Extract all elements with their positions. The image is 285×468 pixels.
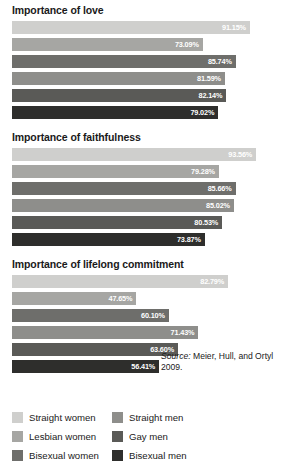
source-label: Source: (161, 351, 191, 361)
legend-item-label: Straight men (129, 412, 183, 424)
bar-row: 93.56% (12, 148, 285, 161)
legend-swatch-icon (12, 412, 23, 423)
bar-row: 85.66% (12, 182, 285, 195)
legend-item-label: Gay men (129, 431, 168, 443)
legend-item-lesbian-women: Lesbian women (12, 427, 112, 446)
bar-value-label: 82.79% (200, 275, 228, 288)
bar-value-label: 91.15% (222, 21, 250, 34)
legend-item-bisexual-men: Bisexual men (112, 446, 187, 465)
bar-straight-men: 81.59% (12, 72, 225, 85)
legend-item-straight-women: Straight women (12, 408, 112, 427)
legend-swatch-icon (12, 450, 23, 461)
bar-row: 60.10% (12, 309, 285, 322)
bar-straight-women: 82.79% (12, 275, 228, 288)
bar-lesbian-women: 73.09% (12, 38, 203, 51)
bar-row: 73.87% (12, 233, 285, 246)
legend-item-label: Bisexual men (129, 450, 187, 462)
bar-lesbian-women: 47.65% (12, 292, 136, 305)
bar-row: 71.43% (12, 326, 285, 339)
bar-bisexual-men: 79.02% (12, 106, 218, 119)
bar-gay-men: 82.14% (12, 89, 226, 102)
legend-item-gay-men: Gay men (112, 427, 187, 446)
bar-value-label: 85.66% (208, 182, 236, 195)
bar-row: 91.15% (12, 21, 285, 34)
bar-value-label: 80.53% (194, 216, 222, 229)
legend-column-right: Straight men Gay men Bisexual men (112, 408, 187, 465)
bar-bisexual-men: 56.41% (12, 360, 159, 373)
bar-row: 79.02% (12, 106, 285, 119)
chart-panel-faithfulness: Importance of faithfulness 93.56% 79.28%… (0, 123, 285, 246)
chart-panel-lifelong-commitment: Importance of lifelong commitment 82.79%… (0, 250, 285, 373)
bar-straight-women: 91.15% (12, 21, 250, 34)
bar-bisexual-men: 73.87% (12, 233, 205, 246)
panel-title-faithfulness: Importance of faithfulness (0, 131, 285, 144)
bar-value-label: 82.14% (199, 89, 227, 102)
bar-straight-men: 71.43% (12, 326, 198, 339)
bar-value-label: 85.02% (206, 199, 234, 212)
bar-row: 82.14% (12, 89, 285, 102)
bar-row: 47.65% (12, 292, 285, 305)
bar-straight-men: 85.02% (12, 199, 234, 212)
bar-value-label: 85.74% (208, 55, 236, 68)
bar-row: 73.09% (12, 38, 285, 51)
bar-group-love: 91.15% 73.09% 85.74% 81.59% 82.1 (0, 21, 285, 119)
bar-row: 85.74% (12, 55, 285, 68)
chart-figure: Importance of love 91.15% 73.09% 85.74% … (0, 0, 285, 468)
bar-row: 82.79% (12, 275, 285, 288)
bar-gay-men: 63.60% (12, 343, 178, 356)
bar-gay-men: 80.53% (12, 216, 222, 229)
bar-bisexual-women: 85.66% (12, 182, 236, 195)
legend-swatch-icon (112, 431, 123, 442)
legend-item-bisexual-women: Bisexual women (12, 446, 112, 465)
bar-row: 80.53% (12, 216, 285, 229)
chart-panel-love: Importance of love 91.15% 73.09% 85.74% … (0, 0, 285, 119)
bar-value-label: 93.56% (228, 148, 256, 161)
bar-lesbian-women: 79.28% (12, 165, 219, 178)
legend-item-straight-men: Straight men (112, 408, 187, 427)
bar-value-label: 60.10% (141, 309, 169, 322)
bar-row: 79.28% (12, 165, 285, 178)
bar-value-label: 79.02% (190, 106, 218, 119)
bar-row: 85.02% (12, 199, 285, 212)
bar-value-label: 73.87% (177, 233, 205, 246)
legend-item-label: Straight women (29, 412, 96, 424)
bar-bisexual-women: 85.74% (12, 55, 236, 68)
bar-value-label: 79.28% (191, 165, 219, 178)
bar-value-label: 56.41% (131, 360, 159, 373)
bar-value-label: 47.65% (109, 292, 137, 305)
bar-value-label: 71.43% (171, 326, 199, 339)
legend-item-label: Lesbian women (29, 431, 96, 443)
legend-swatch-icon (112, 450, 123, 461)
chart-legend: Straight women Lesbian women Bisexual wo… (0, 408, 285, 465)
bar-value-label: 73.09% (175, 38, 203, 51)
bar-straight-women: 93.56% (12, 148, 256, 161)
bar-row: 81.59% (12, 72, 285, 85)
bar-value-label: 81.59% (197, 72, 225, 85)
legend-swatch-icon (12, 431, 23, 442)
source-note: Source: Meier, Hull, and Ortyl 2009. (161, 351, 279, 373)
panel-title-love: Importance of love (0, 4, 285, 17)
legend-swatch-icon (112, 412, 123, 423)
bar-group-faithfulness: 93.56% 79.28% 85.66% 85.02% 80.5 (0, 148, 285, 246)
panel-title-lifelong-commitment: Importance of lifelong commitment (0, 258, 285, 271)
legend-column-left: Straight women Lesbian women Bisexual wo… (12, 408, 112, 465)
bar-bisexual-women: 60.10% (12, 309, 169, 322)
legend-item-label: Bisexual women (29, 450, 99, 462)
